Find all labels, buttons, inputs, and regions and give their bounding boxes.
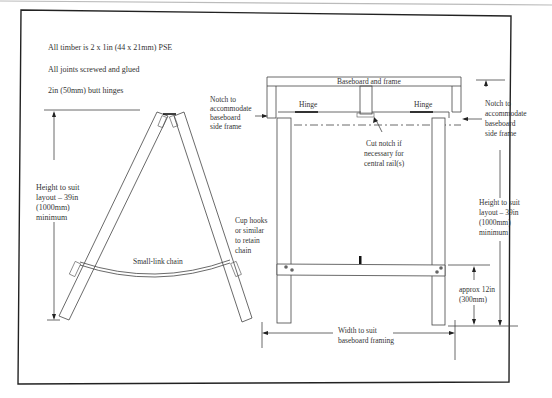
lower-rail [277,264,445,276]
arrow-up-icon [52,111,56,117]
arrow-left-icon [262,331,268,335]
arrow-up-icon [472,266,476,272]
front-view: Baseboard and frame Hinge Hinge Cut notc… [255,77,529,360]
arrow-down-icon [472,319,476,325]
arrow-down-icon [52,314,56,320]
note-joints: All joints screwed and glued [48,65,140,74]
arrow-up-icon [484,80,488,86]
screw-icon [435,270,439,274]
arrow-down-icon [498,320,502,326]
screw-icon [290,268,294,272]
front-leg-left [277,118,291,323]
arrow-left-icon [462,117,468,121]
hinge-left-label: Hinge [299,100,318,109]
front-leg-right [432,118,445,325]
width-label: Width to suit baseboard framing [338,326,394,345]
central-rail [360,86,372,114]
side-frame-left [267,86,276,118]
arrow-right-icon [449,331,455,335]
cut-notch-label: Cut notch if necessary for central rail(… [364,139,406,168]
left-leg [59,112,168,320]
construction-notes: All timber is 2 x 1in (44 x 21mm) PSE Al… [48,43,172,95]
screw-icon [284,265,288,269]
cut-notch-leader [376,120,382,132]
side-height-label: Height to suit layout – 39in (1000mm) mi… [36,183,82,222]
cut-notch [357,113,374,117]
note-timber: All timber is 2 x 1in (44 x 21mm) PSE [48,43,172,52]
side-view: Height to suit layout – 39in (1000mm) mi… [36,95,269,322]
front-height-label: Height to suit layout – 39in (1000mm) mi… [479,198,522,237]
page-edge [0,1,552,5]
note-hinges: 2in (50mm) butt hinges [48,86,123,95]
hinge-right-label: Hinge [414,100,433,109]
trestle-diagram: All timber is 2 x 1in (44 x 21mm) PSE Al… [0,0,552,398]
front-notch-label: Notch to accommodate baseboard side fram… [485,99,529,138]
side-notch-label: Notch to accommodate baseboard side fram… [210,95,254,131]
screw-icon [439,266,443,270]
baseboard-label: Baseboard and frame [337,77,401,86]
cup-hooks-label: Cup hooks or similar to retain chain [235,216,269,255]
chain-label: Small-link chain [133,257,183,266]
rail-height-label: approx 12in (300mm) [459,285,497,304]
side-frame-right [452,86,461,112]
rail-marker [359,256,362,264]
